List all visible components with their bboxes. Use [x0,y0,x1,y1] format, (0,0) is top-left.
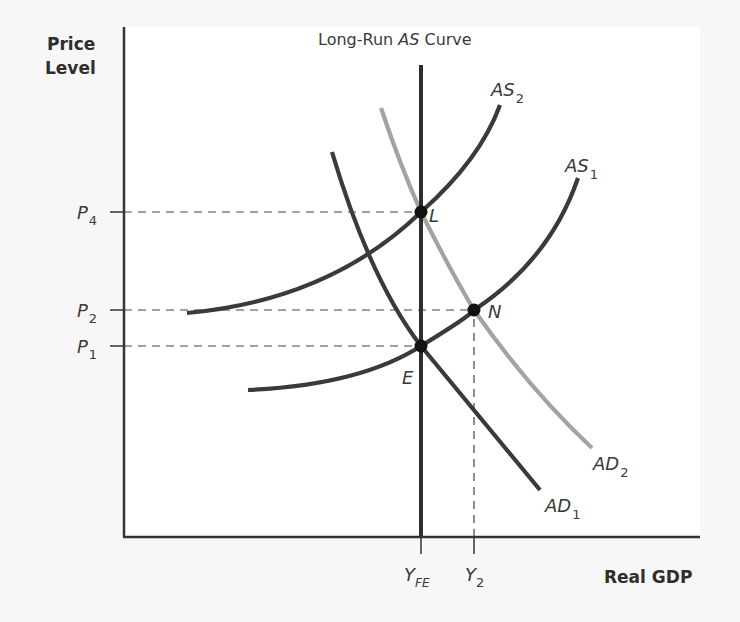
x-tick-label-Y2: Y2 [465,564,484,590]
point-label-N: N [488,301,501,322]
point-label-E: E [402,367,414,388]
y-axis-title-line2: Level [45,58,96,78]
chart-title-post: Curve [419,30,471,49]
y-tick-label-P4: P4 [77,202,97,228]
x-tick-label-YFE: YFE [404,564,430,590]
point-N [468,304,481,317]
point-E [415,340,428,353]
point-label-L: L [429,205,439,226]
y-tick-label-P2: P2 [77,300,97,326]
point-L [415,206,428,219]
y-axis-title-line1: Price [47,34,95,54]
chart-title: Long-Run AS Curve [318,30,472,49]
chart-title-italic: AS [397,30,419,49]
x-axis-title: Real GDP [604,567,692,587]
chart-title-pre: Long-Run [318,30,398,49]
y-tick-label-P1: P1 [77,336,97,362]
as-ad-chart: Price Level Real GDP Long-Run AS Curve P… [0,0,740,622]
